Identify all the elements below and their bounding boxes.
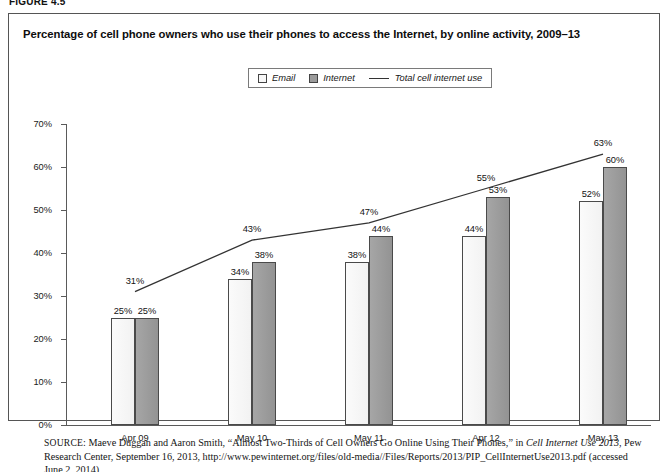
chart-legend: Email Internet Total cell internet use	[248, 68, 492, 88]
bar-internet: 25%	[135, 318, 159, 426]
legend-item-email: Email	[258, 73, 295, 83]
legend-swatch-internet-icon	[309, 74, 318, 83]
figure-box: Percentage of cell phone owners who use …	[8, 13, 660, 421]
bar-email: 34%	[228, 279, 252, 425]
y-axis-tick: 50%	[61, 210, 66, 211]
bar-data-label: 44%	[465, 224, 484, 234]
figure-label: FIGURE 4.5	[9, 0, 65, 7]
bar-internet: 38%	[252, 262, 276, 425]
chart-plot-area: 0%10%20%30%40%50%60%70% 25%25%34%38%38%4…	[66, 111, 651, 425]
bar-data-label: 25%	[114, 306, 133, 316]
y-axis	[66, 124, 67, 425]
y-axis-tick-label: 70%	[33, 119, 52, 129]
bar-email: 52%	[579, 201, 603, 425]
legend-item-total-cell-internet-use: Total cell internet use	[369, 73, 483, 83]
y-axis-tick-label: 10%	[33, 377, 52, 387]
source-prefix: SOURCE	[44, 437, 83, 448]
y-axis-tick: 70%	[61, 124, 66, 125]
y-axis-tick: 40%	[61, 253, 66, 254]
y-axis-tick: 60%	[61, 167, 66, 168]
bar-email: 38%	[345, 262, 369, 425]
bar-data-label: 44%	[372, 224, 391, 234]
bar-group: 44%53%	[462, 111, 510, 425]
bar-email: 44%	[462, 236, 486, 425]
bar-data-label: 34%	[231, 267, 250, 277]
legend-label-email: Email	[272, 73, 295, 83]
bar-data-label: 52%	[582, 189, 601, 199]
bar-data-label: 38%	[348, 250, 367, 260]
source-publication-title: Cell Internet Use 2013	[526, 437, 619, 448]
bar-data-label: 25%	[138, 306, 157, 316]
y-axis-tick: 0%	[61, 425, 66, 426]
legend-line-swatch-icon	[369, 78, 389, 79]
y-axis-tick-label: 20%	[33, 334, 52, 344]
source-note: SOURCE: Maeve Duggan and Aaron Smith, “A…	[44, 436, 644, 472]
line-data-label: 55%	[477, 173, 496, 183]
bar-group: 34%38%	[228, 111, 276, 425]
bar-internet: 53%	[486, 197, 510, 425]
y-axis-tick: 30%	[61, 296, 66, 297]
bar-data-label: 53%	[489, 185, 508, 195]
bar-group: 52%60%	[579, 111, 627, 425]
y-axis-tick-label: 0%	[39, 420, 52, 430]
source-text-before: : Maeve Duggan and Aaron Smith, “Almost …	[83, 437, 526, 448]
y-axis-tick-label: 30%	[33, 291, 52, 301]
bar-data-label: 38%	[255, 250, 274, 260]
bar-data-label: 60%	[606, 155, 625, 165]
legend-item-internet: Internet	[309, 73, 355, 83]
bar-internet: 60%	[603, 167, 627, 425]
line-data-label: 63%	[594, 138, 613, 148]
y-axis-tick-label: 40%	[33, 248, 52, 258]
bar-group: 25%25%	[111, 111, 159, 425]
legend-label-total-cell-internet-use: Total cell internet use	[395, 73, 483, 83]
bar-email: 25%	[111, 318, 135, 426]
line-data-label: 47%	[360, 207, 379, 217]
y-axis-tick-label: 50%	[33, 205, 52, 215]
line-data-label: 43%	[243, 224, 262, 234]
legend-label-internet: Internet	[323, 73, 355, 83]
y-axis-tick-label: 60%	[33, 162, 52, 172]
legend-swatch-email-icon	[258, 74, 267, 83]
line-data-label: 31%	[126, 276, 145, 286]
x-axis	[66, 425, 651, 426]
page-title: Percentage of cell phone owners who use …	[23, 27, 643, 41]
bar-group: 38%44%	[345, 111, 393, 425]
y-axis-tick: 20%	[61, 339, 66, 340]
bar-internet: 44%	[369, 236, 393, 425]
y-axis-tick: 10%	[61, 382, 66, 383]
